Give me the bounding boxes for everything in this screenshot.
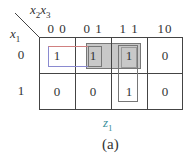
cell-r1-c10: 0 bbox=[147, 74, 183, 110]
column-header-00: 0 0 bbox=[39, 21, 75, 37]
cell-r1-c01: 0 bbox=[75, 74, 111, 110]
row-variable-label: x1 bbox=[10, 26, 20, 44]
row-header-0: 0 bbox=[14, 47, 28, 63]
column-header-01: 0 1 bbox=[75, 21, 111, 37]
cell-r1-c00: 0 bbox=[39, 74, 75, 110]
figure-caption: (a) bbox=[102, 136, 119, 153]
column-header-11: 1 1 bbox=[111, 21, 147, 37]
column-header-10: 10 bbox=[147, 21, 183, 37]
function-label: z1 bbox=[103, 115, 113, 133]
cell-r0-c00: 1 bbox=[39, 38, 75, 74]
column-variables-label: x2x3 bbox=[30, 2, 51, 20]
cell-r1-c11: 1 bbox=[111, 74, 147, 110]
row-header-1: 1 bbox=[14, 83, 28, 99]
cell-r0-c11: 1 bbox=[111, 38, 147, 74]
cell-r0-c01: 1 bbox=[75, 38, 111, 74]
cell-r0-c10: 0 bbox=[147, 38, 183, 74]
